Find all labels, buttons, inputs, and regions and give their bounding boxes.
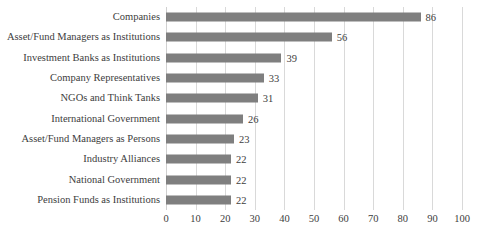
category-label: Companies — [113, 11, 166, 23]
bar-row: International Government26 — [0, 108, 485, 128]
bar — [166, 53, 281, 62]
bar — [166, 155, 231, 164]
x-tick-label: 20 — [220, 212, 231, 225]
bar-row: Industry Alliances22 — [0, 149, 485, 169]
bar — [166, 195, 231, 204]
bar-row: Asset/Fund Managers as Institutions56 — [0, 27, 485, 47]
bar-value-label: 22 — [236, 154, 247, 165]
category-label: International Government — [51, 113, 166, 125]
bar-value-label: 23 — [239, 133, 250, 144]
x-tick-label: 50 — [309, 212, 320, 225]
bar — [166, 175, 231, 184]
x-tick-label: 40 — [279, 212, 290, 225]
bar-value-label: 39 — [286, 52, 297, 63]
bar — [166, 74, 264, 83]
x-tick-label: 100 — [454, 212, 470, 225]
bar-container: 56 — [166, 33, 347, 42]
category-label: Investment Banks as Institutions — [23, 52, 166, 64]
bar-container: 22 — [166, 155, 247, 164]
bar-container: 23 — [166, 134, 250, 143]
bar-value-label: 86 — [426, 12, 437, 23]
bar — [166, 13, 421, 22]
x-tick-label: 60 — [338, 212, 349, 225]
bar — [166, 134, 234, 143]
x-tick-label: 30 — [250, 212, 261, 225]
category-label: Pension Funds as Institutions — [37, 194, 166, 206]
plot-area: Companies86Asset/Fund Managers as Instit… — [0, 0, 485, 237]
bar-container: 39 — [166, 53, 297, 62]
bar-row: National Government22 — [0, 169, 485, 189]
bar — [166, 94, 258, 103]
category-label: Asset/Fund Managers as Persons — [21, 133, 166, 145]
bar-chart: Companies86Asset/Fund Managers as Instit… — [0, 0, 485, 237]
bar-value-label: 33 — [269, 73, 280, 84]
category-label: Company Representatives — [50, 72, 166, 84]
bar-row: Companies86 — [0, 7, 485, 27]
bar-rows: Companies86Asset/Fund Managers as Instit… — [0, 7, 485, 210]
x-tick-label: 90 — [427, 212, 438, 225]
category-label: Industry Alliances — [83, 153, 166, 165]
bar-container: 86 — [166, 13, 436, 22]
x-tick-label: 80 — [398, 212, 409, 225]
bar-row: Pension Funds as Institutions22 — [0, 190, 485, 210]
bar-container: 33 — [166, 74, 279, 83]
category-label: NGOs and Think Tanks — [61, 92, 167, 104]
category-label: National Government — [69, 174, 166, 186]
bar-value-label: 22 — [236, 174, 247, 185]
bar-container: 22 — [166, 195, 247, 204]
bar-container: 22 — [166, 175, 247, 184]
bar-value-label: 22 — [236, 194, 247, 205]
bar-value-label: 56 — [337, 32, 348, 43]
bar-row: Asset/Fund Managers as Persons23 — [0, 129, 485, 149]
bar-row: Investment Banks as Institutions39 — [0, 48, 485, 68]
bar-value-label: 26 — [248, 113, 259, 124]
x-axis-tick-labels: 0102030405060708090100 — [166, 212, 462, 230]
x-tick-label: 70 — [368, 212, 379, 225]
bar — [166, 33, 332, 42]
bar-value-label: 31 — [263, 93, 274, 104]
x-tick-label: 10 — [190, 212, 201, 225]
x-tick-label: 0 — [163, 212, 168, 225]
bar-row: Company Representatives33 — [0, 68, 485, 88]
bar-container: 31 — [166, 94, 273, 103]
bar-container: 26 — [166, 114, 258, 123]
bar — [166, 114, 243, 123]
bar-row: NGOs and Think Tanks31 — [0, 88, 485, 108]
category-label: Asset/Fund Managers as Institutions — [7, 31, 166, 43]
